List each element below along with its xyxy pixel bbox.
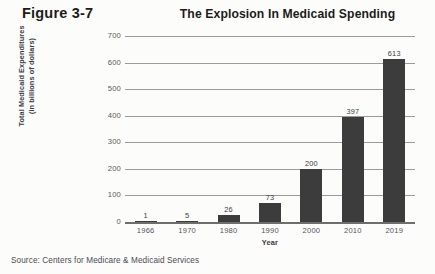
y-axis-tick-label: 500 [87,84,121,93]
bar-group[interactable]: 613 [374,36,414,223]
y-axis-tick-label: 600 [87,58,121,67]
x-axis-tick-label: 2010 [333,226,373,235]
x-axis-tick-label: 1980 [209,226,249,235]
bar-value-label: 200 [287,159,335,168]
x-axis-tick-label: 2019 [374,226,414,235]
y-axis-title: Total Medicaid Expenditures (in billions… [17,1,37,151]
x-axis-tick-label: 1970 [167,226,207,235]
plot-area: 152673200397613 [125,36,415,223]
source-note: Source: Centers for Medicare & Medicaid … [11,256,199,265]
bar[interactable] [342,117,364,222]
bar-group[interactable]: 397 [333,36,373,223]
bar-group[interactable]: 1 [126,36,166,223]
chart-title: The Explosion In Medicaid Spending [150,7,425,21]
y-axis-title-line1: Total Medicaid Expenditures [17,25,26,126]
x-axis-title: Year [125,238,415,247]
y-axis-tick-labels: 7006005004003002001000 [85,36,121,223]
bar-value-label: 26 [205,205,253,214]
bar-value-label: 613 [370,49,418,58]
bar-group[interactable]: 73 [250,36,290,223]
y-axis-tick-label: 200 [87,164,121,173]
bar-value-label: 73 [246,193,294,202]
bar[interactable] [218,215,240,222]
x-axis-tick-label: 2000 [291,226,331,235]
y-axis-tick-label: 100 [87,190,121,199]
y-axis-tick-label: 0 [87,217,121,226]
figure-container: Figure 3-7 The Explosion In Medicaid Spe… [0,0,435,274]
bars-layer: 152673200397613 [125,36,415,223]
y-axis-tick-label: 700 [87,31,121,40]
y-axis-title-line2: (in billions of dollars) [27,38,36,114]
bar-group[interactable]: 26 [209,36,249,223]
y-axis-tick-label: 400 [87,111,121,120]
x-axis-baseline [125,222,415,224]
bar-group[interactable]: 200 [291,36,331,223]
bar[interactable] [383,59,405,222]
bar[interactable] [259,203,281,222]
bar-value-label: 397 [329,107,377,116]
bar-group[interactable]: 5 [167,36,207,223]
y-axis-tick-label: 300 [87,137,121,146]
x-axis-tick-label: 1990 [250,226,290,235]
bar[interactable] [300,169,322,222]
x-axis-tick-label: 1966 [126,226,166,235]
